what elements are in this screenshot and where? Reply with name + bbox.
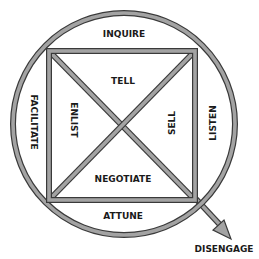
label-facilitate: FACILITATE [29,94,38,149]
label-listen: LISTEN [209,105,218,140]
label-inquire: INQUIRE [103,30,145,39]
label-sell: SELL [168,111,177,135]
label-attune: ATTUNE [103,212,143,221]
sales-conversation-diagram: INQUIRE FACILITATE LISTEN ATTUNE TELL EN… [0,0,259,259]
label-disengage: DISENGAGE [195,245,254,254]
label-negotiate: NEGOTIATE [95,175,152,184]
label-enlist: ENLIST [69,102,78,137]
label-tell: TELL [111,77,135,86]
